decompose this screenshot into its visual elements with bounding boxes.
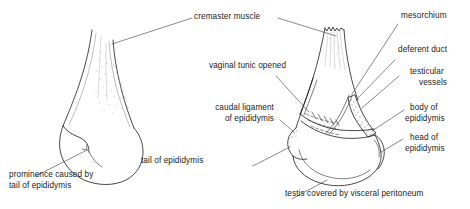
label-testicular-vessels-line2: vessels (419, 78, 447, 88)
leader-tail-epididymis (253, 147, 290, 166)
label-head-of-epididymis-line1: head of (410, 133, 438, 143)
cord-striations (325, 31, 345, 70)
label-testicular-vessels-line1: testicular (410, 67, 444, 77)
leader-head-epididymis (381, 139, 403, 152)
leader-body-epididymis (372, 110, 404, 131)
label-deferent-duct: deferent duct (398, 45, 447, 55)
label-prominence-line1: prominence caused by (9, 170, 93, 180)
label-cremaster-muscle: cremaster muscle (194, 12, 260, 22)
cremaster-stipple (96, 51, 123, 113)
label-tail-of-epididymis: tail of epididymis (141, 156, 203, 166)
leader-deferent-duct (356, 60, 395, 100)
leader-testicular-vessels (362, 76, 399, 108)
leader-cremaster-left (112, 18, 192, 44)
label-body-of-epididymis-line1: body of (410, 103, 438, 113)
right-testis-drawing (253, 18, 404, 199)
label-prominence-line2: tail of epididymis (9, 181, 71, 191)
label-testis-covered-by-visceral-peritoneum: testis covered by visceral peritoneum (285, 189, 423, 199)
label-body-of-epididymis-line2: epididymis (405, 114, 445, 124)
leader-cremaster-right (278, 18, 336, 36)
hidden-structure-1 (306, 114, 336, 123)
leader-caudal-ligament (280, 120, 294, 132)
leader-vaginal-tunic (276, 76, 309, 112)
label-caudal-ligament-line2: of epididymis (154, 114, 274, 124)
label-vaginal-tunic-opened: vaginal tunic opened (209, 61, 286, 71)
label-mesorchium: mesorchium (401, 11, 447, 21)
anatomical-figure: cremaster muscle prominence caused by ta… (0, 0, 470, 209)
label-caudal-ligament-line1: caudal ligament (154, 103, 274, 113)
leader-mesorchium (352, 24, 398, 94)
label-head-of-epididymis-line2: epididymis (405, 144, 445, 154)
